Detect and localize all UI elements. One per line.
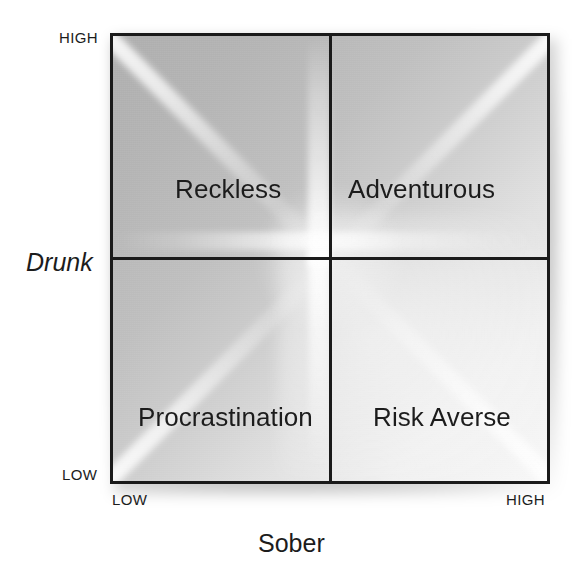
x-axis-high-tick-label: HIGH (506, 491, 545, 508)
x-axis-title: Sober (258, 529, 325, 558)
quadrant-label-top-left: Reckless (175, 174, 281, 205)
quadrant-label-bottom-right: Risk Averse (373, 402, 511, 433)
quadrant-matrix-diagram: Reckless Adventurous Procrastination Ris… (0, 0, 579, 576)
y-axis-high-tick-label: HIGH (59, 29, 98, 46)
horizontal-divider (113, 257, 547, 260)
quadrant-label-top-right: Adventurous (348, 174, 495, 205)
x-axis-low-tick-label: LOW (112, 491, 147, 508)
y-axis-low-tick-label: LOW (62, 466, 97, 483)
plot-area: Reckless Adventurous Procrastination Ris… (110, 33, 550, 484)
quadrant-label-bottom-left: Procrastination (138, 402, 313, 433)
y-axis-title: Drunk (26, 248, 93, 277)
